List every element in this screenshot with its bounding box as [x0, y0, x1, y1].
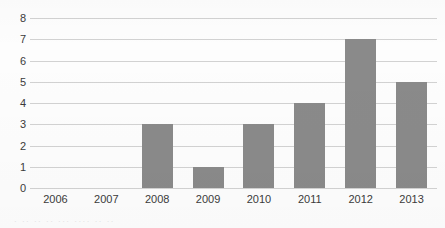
- y-axis: 876543210: [0, 18, 26, 188]
- x-axis: 20062007200820092010201120122013: [30, 192, 437, 212]
- x-axis-tick-label-2008: 2008: [145, 192, 169, 207]
- x-axis-tick-label-2013: 2013: [399, 192, 423, 207]
- y-axis-tick-label: 1: [0, 161, 26, 172]
- y-axis-tick-label: 4: [0, 98, 26, 109]
- caption-fragment: · ·· ·· ·· ··· ···· ·· ··: [14, 217, 234, 226]
- gridline-0: [30, 188, 437, 189]
- x-axis-tick-label-2012: 2012: [348, 192, 372, 207]
- x-axis-tick-label-2007: 2007: [94, 192, 118, 207]
- y-axis-tick-label: 8: [0, 13, 26, 24]
- x-axis-tick-label-2009: 2009: [196, 192, 220, 207]
- y-axis-tick-label: 3: [0, 119, 26, 130]
- bar-2013: [396, 82, 427, 188]
- bar-2008: [142, 124, 173, 188]
- bar-2010: [243, 124, 274, 188]
- y-axis-tick-label: 2: [0, 140, 26, 151]
- bar-chart-screenshot: 876543210 200620072008200920102011201220…: [0, 0, 445, 228]
- bar-2011: [294, 103, 325, 188]
- x-axis-tick-label-2011: 2011: [298, 192, 322, 207]
- bar-2012: [345, 39, 376, 188]
- gridline-8: [30, 18, 437, 19]
- y-axis-tick-label: 6: [0, 55, 26, 66]
- x-axis-tick-label-2006: 2006: [43, 192, 67, 207]
- x-axis-tick-label-2010: 2010: [247, 192, 271, 207]
- y-axis-tick-label: 5: [0, 76, 26, 87]
- y-axis-tick-label: 0: [0, 183, 26, 194]
- bar-2009: [193, 167, 224, 188]
- plot-area: [30, 18, 437, 188]
- y-axis-tick-label: 7: [0, 34, 26, 45]
